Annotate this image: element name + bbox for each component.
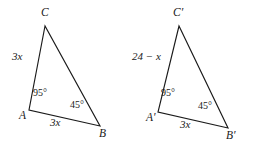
- vertex-label-b: B: [99, 128, 106, 140]
- angle-label-a-prime: 95°: [161, 88, 175, 98]
- triangles-drawing: [0, 0, 254, 154]
- triangle-abc-shape: [29, 26, 100, 126]
- side-label-ac-prime: 24 − x: [132, 51, 161, 62]
- vertex-label-a-prime: A′: [146, 112, 156, 124]
- angle-label-a: 95°: [33, 88, 47, 98]
- triangle-abc-path: [29, 26, 100, 126]
- side-label-ab-prime: 3x: [180, 119, 190, 130]
- vertex-label-c-prime: C′: [173, 7, 183, 19]
- geometry-figure: C A B 3x 3x 95° 45° C′ A′ B′ 24 − x 3x 9…: [0, 0, 254, 154]
- vertex-label-c: C: [41, 7, 49, 19]
- angle-label-b-prime: 45°: [198, 101, 212, 111]
- triangle-abc-prime-shape: [158, 26, 228, 128]
- vertex-label-a: A: [19, 110, 26, 122]
- angle-label-b: 45°: [70, 100, 84, 110]
- triangle-abc-prime-path: [158, 26, 228, 128]
- side-label-ab: 3x: [50, 117, 60, 128]
- vertex-label-b-prime: B′: [226, 130, 236, 142]
- side-label-ac: 3x: [12, 51, 22, 62]
